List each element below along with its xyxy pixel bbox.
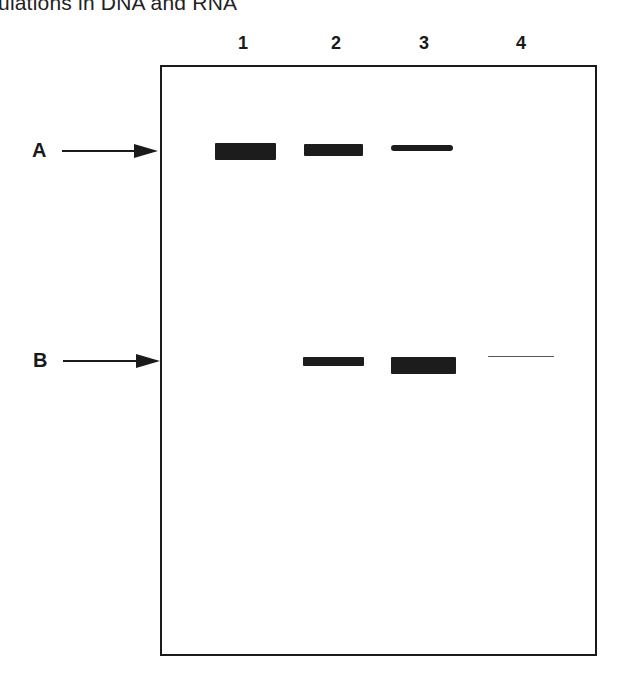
marker-a: A — [32, 139, 158, 162]
band-b-lane-4 — [488, 356, 554, 357]
lane-label-4: 4 — [511, 33, 531, 54]
band-b-lane-2 — [303, 357, 364, 366]
marker-a-label: A — [32, 139, 54, 162]
figure-caption: ulations in DNA and RNA — [0, 0, 237, 15]
band-b-lane-3 — [391, 357, 456, 374]
marker-b: B — [33, 349, 160, 372]
arrow-right-icon — [63, 354, 160, 368]
lane-label-1: 1 — [233, 33, 253, 54]
band-a-lane-2 — [304, 144, 363, 156]
band-a-lane-1 — [215, 143, 276, 160]
arrow-right-icon — [62, 144, 158, 158]
lane-label-2: 2 — [326, 33, 346, 54]
marker-b-label: B — [33, 349, 55, 372]
band-a-lane-3 — [391, 145, 453, 151]
lane-label-3: 3 — [414, 33, 434, 54]
